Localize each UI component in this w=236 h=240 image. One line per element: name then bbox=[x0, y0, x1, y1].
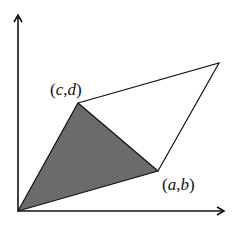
shaded-triangle bbox=[18, 103, 158, 211]
label-c-d-close: ) bbox=[76, 80, 82, 99]
label-a-b-close: ) bbox=[189, 175, 195, 194]
label-c-d-var-d: d bbox=[67, 80, 76, 99]
label-a-b: (a,b) bbox=[162, 176, 195, 193]
label-a-b-var-a: a bbox=[168, 175, 177, 194]
label-c-d: (c,d) bbox=[50, 81, 82, 98]
diagram-canvas: (c,d) (a,b) bbox=[0, 0, 236, 240]
diagram-svg bbox=[0, 0, 236, 240]
label-a-b-var-b: b bbox=[180, 175, 189, 194]
